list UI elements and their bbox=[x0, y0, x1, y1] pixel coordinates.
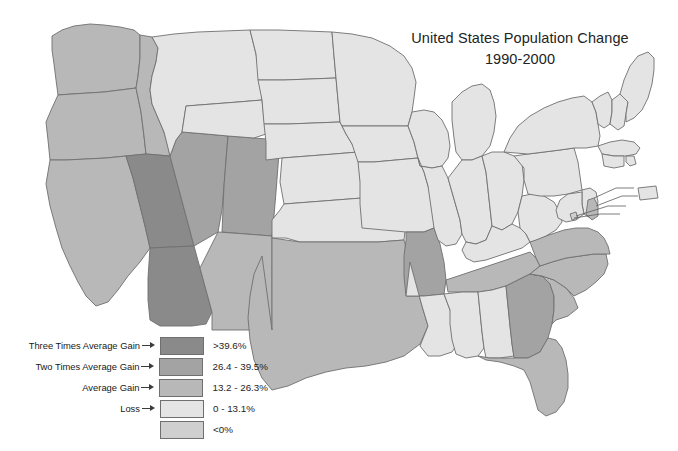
population-change-map-figure: United States Population Change 1990-200… bbox=[0, 0, 678, 451]
legend-swatch-1 bbox=[159, 358, 203, 376]
state-NY bbox=[504, 96, 600, 154]
legend-swatch-3 bbox=[160, 400, 204, 418]
callout-box-de bbox=[638, 186, 658, 200]
state-WA bbox=[52, 24, 140, 95]
legend-row-1: Two Times Average Gain 26.4 - 39.5% bbox=[28, 357, 268, 376]
state-RI bbox=[626, 156, 636, 166]
legend-row-0: Three Times Average Gain >39.6% bbox=[28, 336, 268, 355]
legend-swatch-2 bbox=[159, 379, 203, 397]
state-CT bbox=[602, 154, 624, 168]
state-MN bbox=[332, 32, 416, 126]
legend-arrow-icon-2 bbox=[141, 383, 157, 393]
legend-arrow-icon-3 bbox=[142, 404, 158, 414]
state-MI bbox=[452, 84, 496, 160]
leader-line-de bbox=[596, 196, 638, 206]
legend-row-3: Loss 0 - 13.1% bbox=[28, 399, 268, 418]
legend-arrow-icon-0 bbox=[142, 341, 158, 351]
legend-value-2: 13.2 - 26.3% bbox=[212, 382, 268, 393]
legend-pointer-label-0: Three Times Average Gain bbox=[28, 340, 142, 351]
state-MA bbox=[598, 140, 640, 156]
state-SD bbox=[258, 78, 340, 124]
map-legend: Three Times Average Gain >39.6% Two Time… bbox=[28, 336, 268, 441]
state-WY bbox=[182, 100, 266, 138]
legend-value-3: 0 - 13.1% bbox=[213, 403, 255, 414]
state-TX bbox=[248, 238, 428, 390]
legend-swatch-4 bbox=[160, 421, 204, 439]
legend-row-4: <0% bbox=[28, 420, 268, 439]
legend-pointer-label-2: Average Gain bbox=[28, 382, 141, 393]
state-OR bbox=[46, 88, 146, 160]
state-PA bbox=[514, 148, 582, 196]
legend-value-1: 26.4 - 39.5% bbox=[212, 361, 268, 372]
legend-swatch-0 bbox=[160, 337, 204, 355]
legend-pointer-label-3: Loss bbox=[28, 403, 142, 414]
state-AZ bbox=[148, 246, 212, 326]
state-ND bbox=[250, 30, 336, 80]
legend-value-0: >39.6% bbox=[213, 340, 247, 351]
legend-row-2: Average Gain 13.2 - 26.3% bbox=[28, 378, 268, 397]
state-KS bbox=[280, 152, 362, 204]
leader-line-nj bbox=[594, 188, 634, 198]
legend-value-4: <0% bbox=[213, 424, 233, 435]
legend-pointer-label-1: Two Times Average Gain bbox=[28, 361, 141, 372]
legend-arrow-icon-1 bbox=[141, 362, 157, 372]
